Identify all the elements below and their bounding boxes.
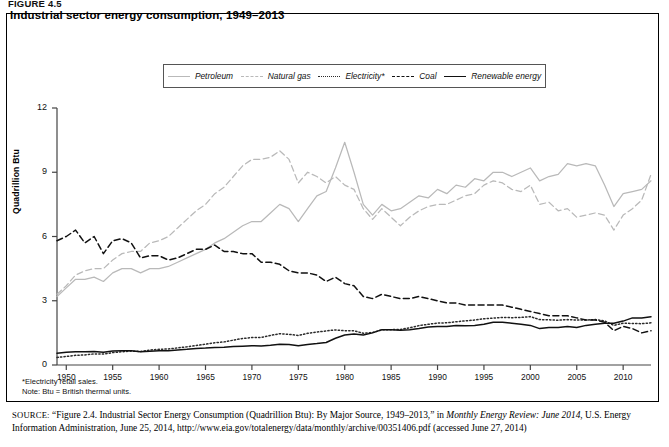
y-tick-label: 6 xyxy=(29,231,47,241)
source-citation: SOURCE: “Figure 2.4. Industrial Sector E… xyxy=(12,409,662,434)
x-tick-label: 1990 xyxy=(420,372,456,382)
plot-area: Quadrillion Btu 036912 19501955196019651… xyxy=(0,0,669,402)
x-tick-label: 1985 xyxy=(373,372,409,382)
source-text-1: “Figure 2.4. Industrial Sector Energy Co… xyxy=(52,410,446,420)
series-line-petroleum xyxy=(57,142,651,296)
x-tick-label: 1975 xyxy=(280,372,316,382)
y-tick-label: 0 xyxy=(29,359,47,369)
y-tick-label: 9 xyxy=(29,166,47,176)
x-tick-label: 2000 xyxy=(512,372,548,382)
chart-svg xyxy=(0,0,669,402)
x-tick-label: 2005 xyxy=(559,372,595,382)
note-btu: Note: Btu = British thermal units. xyxy=(22,387,131,397)
source-italic-1: Monthly Energy Review: June 2014 xyxy=(446,410,580,420)
series-line-coal xyxy=(57,230,651,333)
y-tick-label: 3 xyxy=(29,295,47,305)
y-tick-label: 12 xyxy=(29,102,47,112)
x-tick-label: 1980 xyxy=(327,372,363,382)
x-tick-label: 1995 xyxy=(466,372,502,382)
footnote-electricity: *Electricity retail sales. xyxy=(22,377,131,387)
series-lines xyxy=(57,142,651,357)
x-tick-label: 1965 xyxy=(188,372,224,382)
x-tick-label: 2010 xyxy=(605,372,641,382)
source-prefix: SOURCE: xyxy=(12,410,50,420)
series-line-renewable-energy xyxy=(57,317,651,353)
x-tick-label: 1970 xyxy=(234,372,270,382)
x-tick-label: 1960 xyxy=(141,372,177,382)
chart-notes: *Electricity retail sales. Note: Btu = B… xyxy=(22,377,131,398)
